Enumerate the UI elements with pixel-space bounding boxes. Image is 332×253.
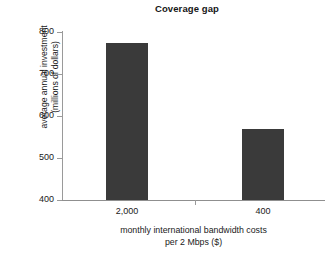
y-tick-700: 700 <box>57 74 62 75</box>
x-axis-title-line-2: per 2 Mbps ($) <box>62 236 325 248</box>
y-tick-label-500: 500 <box>39 152 54 162</box>
y-axis-title: average annual investment (millions of d… <box>35 0 65 162</box>
x-tick-label-0: 2,000 <box>116 206 139 216</box>
bar-series-1 <box>242 129 284 200</box>
y-tick-label-800: 800 <box>39 26 54 36</box>
y-tick-800: 800 <box>57 32 62 33</box>
y-tick-400: 400 <box>57 200 62 201</box>
x-axis-line <box>62 200 325 201</box>
chart-title: Coverage gap <box>62 3 312 14</box>
y-tick-label-400: 400 <box>39 194 54 204</box>
bar-series-0 <box>106 43 148 201</box>
x-tick-divider <box>195 200 196 205</box>
y-tick-500: 500 <box>57 158 62 159</box>
x-axis-title: monthly international bandwidth costs pe… <box>62 224 325 248</box>
bar-chart: Coverage gap average annual investment (… <box>0 0 332 253</box>
y-tick-label-700: 700 <box>39 68 54 78</box>
x-tick-label-1: 400 <box>255 206 270 216</box>
y-tick-label-600: 600 <box>39 110 54 120</box>
y-tick-600: 600 <box>57 116 62 117</box>
plot-area: 800 700 600 500 400 <box>62 32 325 200</box>
x-axis-title-line-1: monthly international bandwidth costs <box>62 224 325 236</box>
